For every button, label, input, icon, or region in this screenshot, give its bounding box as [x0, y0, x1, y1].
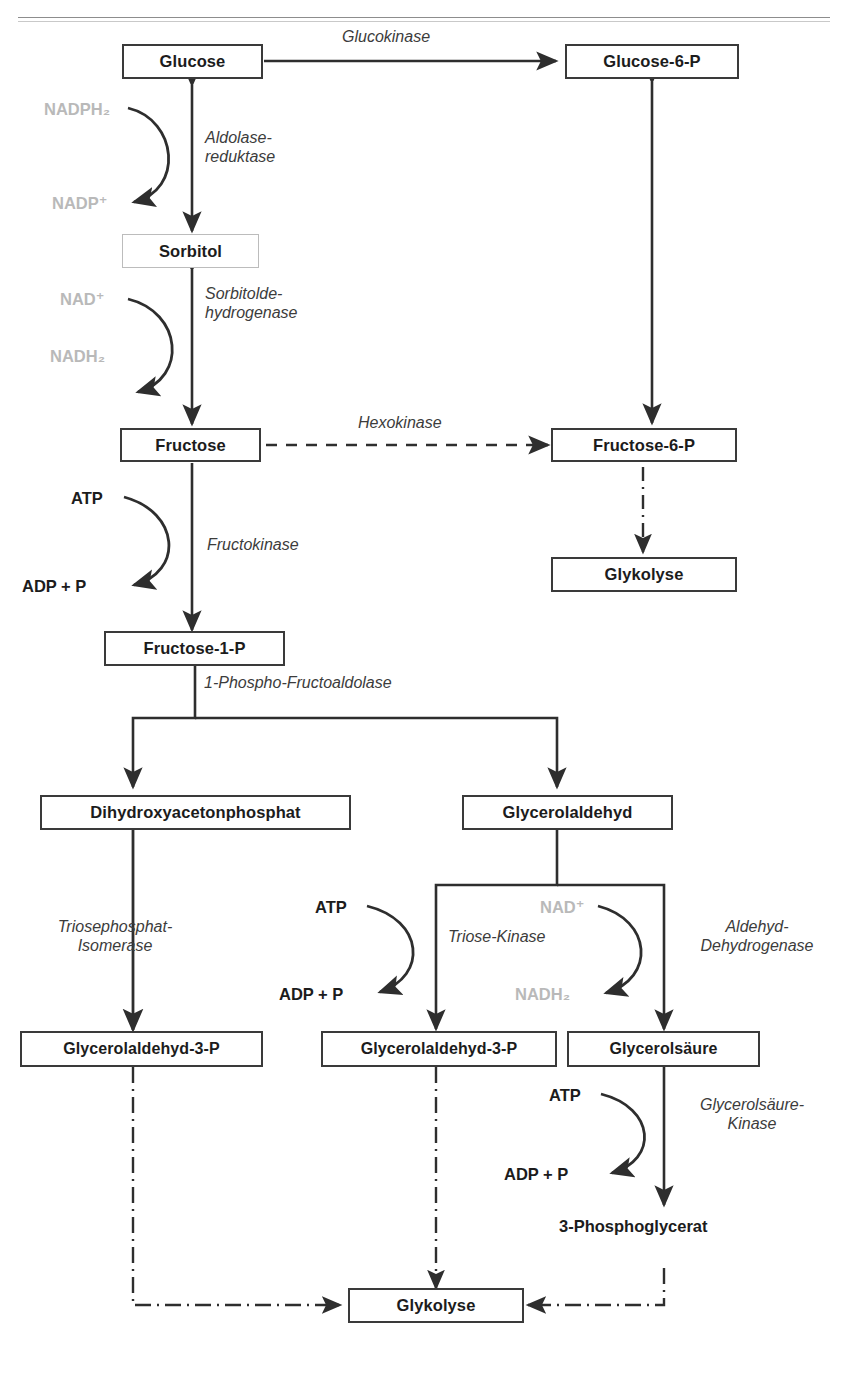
cofactor-nad-plus-aldehyd: NAD⁺	[540, 898, 584, 917]
edge-ga3p-left-to-glykolyse	[133, 1067, 340, 1305]
node-sorbitol[interactable]: Sorbitol	[122, 234, 259, 268]
arc-nadph2-nadp	[128, 108, 169, 202]
cofactor-nadp-plus: NADP⁺	[52, 194, 107, 213]
node-glycerolaldehyd-3-p-mid[interactable]: Glycerolaldehyd-3-P	[321, 1031, 557, 1067]
enzyme-aldolase-reduktase: Aldolase- reduktase	[205, 129, 275, 167]
page-header-rule	[18, 17, 830, 18]
pathway-diagram: Fructose-6-P : Hexokinase (dashed) --> G…	[0, 0, 849, 1380]
cofactor-adp-p-glycerolsaeure: ADP + P	[504, 1165, 568, 1184]
enzyme-glucokinase: Glucokinase	[342, 28, 430, 47]
cofactor-adp-p-fructokinase: ADP + P	[22, 577, 86, 596]
page-header-rule-secondary	[18, 21, 830, 22]
enzyme-sorbitoldehydrogenase: Sorbitolde- hydrogenase	[205, 285, 298, 323]
cofactor-nad-plus-sorbitol: NAD⁺	[60, 290, 104, 309]
enzyme-1-phospho-fructoaldolase: 1-Phospho-Fructoaldolase	[204, 674, 392, 693]
node-glykolyse-bottom[interactable]: Glykolyse	[348, 1288, 524, 1323]
node-glucose-6-p[interactable]: Glucose-6-P	[565, 44, 739, 79]
node-glycerolaldehyd[interactable]: Glycerolaldehyd	[462, 795, 673, 830]
node-dihydroxyacetonphosphat[interactable]: Dihydroxyacetonphosphat	[40, 795, 351, 830]
cofactor-atp-triose: ATP	[315, 898, 347, 917]
enzyme-glycerolsaeure-kinase: Glycerolsäure- Kinase	[672, 1096, 832, 1134]
enzyme-triose-kinase: Triose-Kinase	[448, 928, 546, 947]
arc-atp-adp-fructokinase	[124, 497, 169, 585]
enzyme-hexokinase: Hexokinase	[358, 414, 442, 433]
cofactor-adp-p-triose: ADP + P	[279, 985, 343, 1004]
edge-fructose1p-split-right	[195, 718, 557, 787]
enzyme-fructokinase: Fructokinase	[207, 536, 299, 555]
edge-fructose1p-split	[133, 666, 195, 787]
arc-nad-nadh2-aldehyd	[598, 906, 641, 993]
arc-atp-adp-triose	[367, 906, 413, 992]
node-glycerolsaeure[interactable]: Glycerolsäure	[567, 1031, 760, 1067]
node-3-phosphoglycerat: 3-Phosphoglycerat	[559, 1217, 708, 1236]
node-glykolyse-right[interactable]: Glykolyse	[551, 557, 737, 592]
node-fructose[interactable]: Fructose	[120, 428, 261, 462]
cofactor-atp-fructokinase: ATP	[71, 489, 103, 508]
connector-layer: Fructose-6-P : Hexokinase (dashed) --> G…	[0, 0, 849, 1380]
cofactor-nadh2-aldehyd: NADH₂	[515, 985, 570, 1004]
arc-atp-adp-glycerolsaeure	[601, 1094, 645, 1173]
cofactor-nadph2: NADPH₂	[44, 100, 110, 119]
node-fructose-1-p[interactable]: Fructose-1-P	[104, 631, 285, 666]
enzyme-aldehyd-dehydrogenase: Aldehyd- Dehydrogenase	[672, 918, 842, 956]
arc-nad-nadh2	[128, 299, 172, 392]
edge-pg-to-glykolyse	[528, 1268, 664, 1305]
cofactor-atp-glycerolsaeure: ATP	[549, 1086, 581, 1105]
enzyme-triosephosphat-isomerase: Triosephosphat- Isomerase	[20, 918, 210, 956]
node-fructose-6-p[interactable]: Fructose-6-P	[551, 428, 737, 462]
node-glycerolaldehyd-3-p-left[interactable]: Glycerolaldehyd-3-P	[20, 1031, 263, 1067]
node-glucose[interactable]: Glucose	[122, 44, 263, 79]
cofactor-nadh2-sorbitol: NADH₂	[50, 347, 105, 366]
